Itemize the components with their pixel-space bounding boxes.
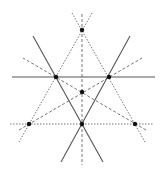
- dashed-line-bottom-left-rising: [19, 58, 142, 130]
- point-upper-left: [54, 75, 58, 79]
- point-bottom-right: [133, 122, 137, 126]
- point-center: [80, 90, 84, 94]
- solid-lines: [12, 36, 155, 162]
- line-configuration-diagram: [0, 0, 165, 175]
- point-top: [80, 28, 84, 32]
- point-upper-right: [107, 75, 111, 79]
- point-bottom-center: [80, 122, 84, 126]
- point-bottom-left: [27, 122, 31, 126]
- dashed-lines: [10, 13, 153, 165]
